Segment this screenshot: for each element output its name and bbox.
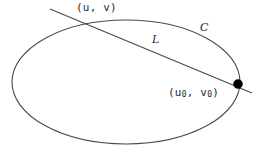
- figure-canvas: [0, 0, 267, 156]
- label-curve-c: C: [200, 22, 209, 33]
- label-u0v0-prefix: (u: [168, 86, 182, 99]
- label-u0v0-suffix: ): [212, 86, 219, 99]
- label-point-uv: (u, v): [76, 2, 117, 13]
- math-figure: (u, v) (u0, v0) C L: [0, 0, 267, 156]
- label-point-u0v0: (u0, v0): [168, 87, 219, 99]
- label-u0v0-mid: , v: [187, 86, 207, 99]
- point-u0v0-marker: [234, 80, 243, 89]
- label-line-l: L: [152, 34, 160, 45]
- curve-c-ellipse: [12, 20, 240, 144]
